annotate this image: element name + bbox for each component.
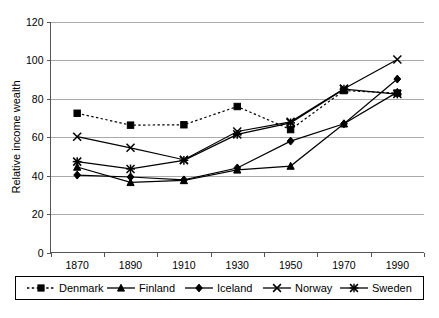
- data-point-marker-square: [38, 285, 44, 291]
- y-tick-label: 100: [26, 54, 44, 66]
- data-point-marker-star: [340, 85, 349, 94]
- y-tick-label: 80: [32, 93, 44, 105]
- data-point-marker-square: [234, 103, 240, 109]
- y-tick-label: 120: [26, 16, 44, 28]
- data-point-marker-star: [73, 157, 82, 166]
- x-tick-label: 1930: [226, 259, 250, 271]
- legend-item-sweden[interactable]: Sweden: [340, 282, 412, 294]
- y-tick-label: 0: [38, 247, 44, 259]
- data-point-marker-star: [393, 90, 402, 99]
- legend-label-denmark: Denmark: [59, 282, 104, 294]
- legend-label-iceland: Iceland: [217, 282, 252, 294]
- legend-item-norway[interactable]: Norway: [263, 282, 333, 294]
- data-point-marker-square: [127, 122, 133, 128]
- data-point-marker-star: [126, 165, 135, 174]
- data-point-marker-star: [286, 118, 295, 127]
- data-point-marker-star: [233, 130, 242, 139]
- x-tick-label: 1870: [65, 259, 89, 271]
- y-axis-title: Relative income wealth: [10, 80, 22, 193]
- x-tick-label: 1950: [279, 259, 303, 271]
- legend-label-finland: Finland: [139, 282, 175, 294]
- x-tick-label: 1890: [119, 259, 143, 271]
- data-point-marker-square: [181, 122, 187, 128]
- line-chart: 020406080100120 187018901910193019501970…: [0, 0, 439, 318]
- data-point-marker-square: [287, 126, 293, 132]
- data-point-marker-star: [350, 284, 359, 293]
- x-tick-label: 1970: [332, 259, 356, 271]
- data-point-marker-star: [179, 156, 188, 165]
- y-tick-label: 60: [32, 131, 44, 143]
- legend-label-sweden: Sweden: [372, 282, 412, 294]
- y-tick-label: 40: [32, 170, 44, 182]
- y-tick-label: 20: [32, 208, 44, 220]
- x-tick-label: 1910: [172, 259, 196, 271]
- chart-container: 020406080100120 187018901910193019501970…: [0, 0, 439, 318]
- data-point-marker-square: [74, 110, 80, 116]
- legend-label-norway: Norway: [295, 282, 333, 294]
- x-tick-label: 1990: [386, 259, 410, 271]
- legend: DenmarkFinlandIcelandNorwaySweden: [27, 282, 412, 294]
